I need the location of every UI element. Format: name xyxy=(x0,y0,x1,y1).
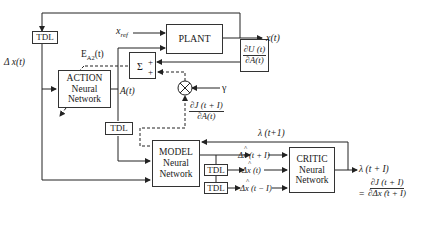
sum-plus-1: + xyxy=(148,57,153,67)
dx-hat-now-label: Δx (t) xyxy=(242,166,261,175)
plant-block: PLANT xyxy=(166,24,223,54)
lambda-top-label: λ (t+1) xyxy=(258,129,285,139)
du-da-denominator: ∂A(t) xyxy=(245,56,263,66)
error-label: EA2(t) xyxy=(81,50,104,61)
hat-icon: ^ xyxy=(246,178,249,185)
multiplier-icon xyxy=(178,81,192,95)
sum-plus-2: + xyxy=(148,67,153,77)
model-label-2: Neural xyxy=(163,158,189,169)
equals-label: = xyxy=(359,190,364,200)
tdl-top-block: TDL xyxy=(32,31,58,44)
tdl-critic-1-block: TDL xyxy=(204,164,228,176)
action-label-1: ACTION xyxy=(67,73,103,84)
model-label-3: Network xyxy=(159,169,192,180)
x-ref-label: xref xyxy=(116,26,128,39)
lambda-out-label: λ (t + I) xyxy=(359,165,389,175)
plant-label: PLANT xyxy=(178,33,210,45)
x-t-label: x(t) xyxy=(266,33,280,43)
model-label-1: MODEL xyxy=(159,147,193,158)
delta-x-t-label: Δ x(t) xyxy=(4,58,25,68)
hat-icon: ^ xyxy=(244,145,247,152)
gamma-label: γ xyxy=(222,83,226,93)
hat-icon: ^ xyxy=(248,160,251,167)
sum-label: Σ xyxy=(137,61,143,73)
critic-label-1: CRITIC xyxy=(296,154,327,165)
critic-label-2: Neural xyxy=(299,165,325,176)
dx-hat-prev-label: Δx (t − I) xyxy=(240,184,272,193)
hat-icon: ^ xyxy=(386,189,389,196)
action-label-2: Neural xyxy=(72,84,98,95)
dj-da-label: ∂J (t + I) ∂A(t) xyxy=(189,101,224,122)
critic-label-3: Network xyxy=(295,175,328,186)
tdl-top-label: TDL xyxy=(36,32,54,42)
dx-hat-next-label: Δx (t + I) xyxy=(238,151,270,160)
tdl-critic-2-block: TDL xyxy=(204,182,228,194)
tdl-critic-2-label: TDL xyxy=(207,183,225,193)
du-da-block: ∂U (t) ∂A(t) xyxy=(240,39,269,72)
model-network-block: MODEL Neural Network xyxy=(152,140,200,187)
critic-network-block: CRITIC Neural Network xyxy=(289,147,335,193)
tdl-critic-1-label: TDL xyxy=(207,165,225,175)
tdl-mid-label: TDL xyxy=(110,123,128,133)
action-label-3: Network xyxy=(68,94,101,105)
action-network-block: ACTION Neural Network xyxy=(58,70,111,108)
sum-block: Σ + + xyxy=(129,52,156,79)
tdl-mid-block: TDL xyxy=(105,122,133,135)
a-t-label: A(t) xyxy=(120,87,135,97)
